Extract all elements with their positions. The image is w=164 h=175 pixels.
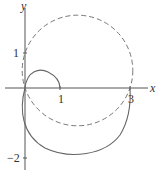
x-tick-label-3: 3 xyxy=(128,92,134,106)
y-tick-label-neg2: −2 xyxy=(7,151,20,165)
solid-limacon-curve xyxy=(22,70,130,154)
y-axis-label: y xyxy=(20,0,27,13)
x-tick-label-1: 1 xyxy=(58,92,64,106)
x-axis-label: x xyxy=(149,81,156,95)
polar-curves-diagram: x y 1 3 1 −2 xyxy=(0,0,164,175)
y-tick-label-1: 1 xyxy=(13,46,19,60)
